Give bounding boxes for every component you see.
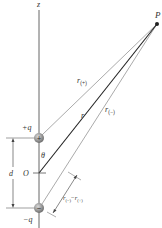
r-plus-line bbox=[42, 24, 157, 135]
diff-arrow-bottom bbox=[53, 209, 57, 213]
d-arrow-down bbox=[12, 204, 15, 208]
theta-label: θ bbox=[41, 151, 45, 160]
positive-charge-symbol: + bbox=[37, 134, 42, 143]
positive-charge-label: +q bbox=[22, 123, 31, 132]
electric-dipole-diagram: z P r(+) r r(−) O θ d r(−)−r(+) + +q − −… bbox=[0, 0, 162, 228]
point-p bbox=[155, 22, 159, 26]
diff-tick-bottom bbox=[47, 212, 56, 217]
r-minus-label: r(−) bbox=[105, 105, 115, 116]
point-p-label: P bbox=[154, 10, 161, 20]
z-axis-label: z bbox=[36, 0, 41, 9]
r-plus-label: r(+) bbox=[77, 76, 87, 87]
diff-label: r(−)−r(+) bbox=[63, 194, 83, 203]
r-line bbox=[39, 24, 157, 173]
origin-label: O bbox=[23, 169, 29, 178]
dipole-figure: z P r(+) r r(−) O θ d r(−)−r(+) + +q − −… bbox=[0, 0, 162, 228]
d-label: d bbox=[9, 169, 14, 178]
negative-charge-label: −q bbox=[23, 215, 32, 224]
r-minus-line bbox=[42, 24, 157, 204]
negative-charge-symbol: − bbox=[37, 204, 42, 213]
d-arrow-up bbox=[12, 138, 15, 142]
